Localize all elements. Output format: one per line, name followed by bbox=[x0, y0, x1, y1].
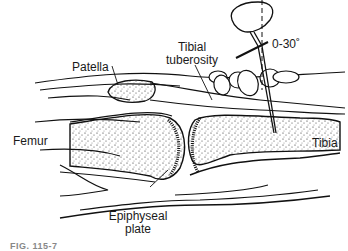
label-tibia: Tibia bbox=[312, 137, 338, 150]
label-epiphyseal-plate: Epiphyseal plate bbox=[100, 210, 176, 236]
label-femur: Femur bbox=[13, 135, 48, 148]
intraosseous-needle bbox=[231, 2, 276, 133]
figure-caption: FIG. 115-7 bbox=[10, 241, 58, 251]
fingers bbox=[209, 67, 299, 98]
label-tibial-tuberosity-line2: tuberosity bbox=[156, 54, 228, 67]
label-angle: 0-30˚ bbox=[272, 38, 300, 51]
patella-bone bbox=[108, 80, 155, 102]
label-tibial-tuberosity: Tibial tuberosity bbox=[156, 41, 228, 67]
label-epiphyseal-line2: plate bbox=[100, 223, 176, 236]
label-patella: Patella bbox=[72, 61, 109, 74]
